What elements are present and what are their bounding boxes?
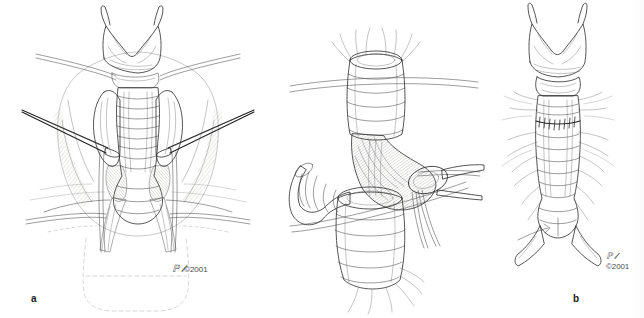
panel-a: a ℙ 𝓁©2001 (0, 0, 276, 318)
panel-a-illustration (0, 0, 276, 318)
panel-label-a: a (31, 294, 37, 304)
figure-sheet: a ℙ 𝓁©2001 (0, 0, 644, 318)
panel-b-illustration (276, 0, 488, 318)
anastomosis-suture-line-shape (536, 117, 580, 130)
panel-c: c ℙ 𝓁©2001 (488, 0, 644, 318)
artist-signature-a: ℙ 𝓁©2001 (172, 259, 208, 275)
copyright-year-a: ©2001 (184, 265, 208, 274)
panel-c-illustration (488, 0, 644, 318)
panel-b: b ℙ 𝓁 ©2001 (276, 0, 488, 318)
signature-mark-a: ℙ 𝓁 (172, 263, 184, 274)
